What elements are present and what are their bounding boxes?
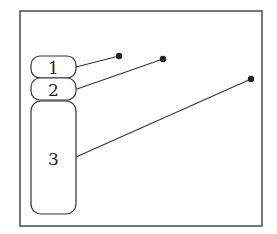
part-1: 1 xyxy=(31,53,122,78)
part-1-leader-line xyxy=(76,56,119,67)
part-2-label: 2 xyxy=(48,80,59,100)
diagram-canvas: 1 2 3 xyxy=(0,0,277,234)
part-3-label: 3 xyxy=(48,149,59,169)
part-1-endpoint-dot xyxy=(116,53,122,59)
part-2-endpoint-dot xyxy=(160,56,166,62)
part-3-leader-line xyxy=(76,79,251,157)
part-1-label: 1 xyxy=(48,58,59,78)
part-3-endpoint-dot xyxy=(248,76,254,82)
